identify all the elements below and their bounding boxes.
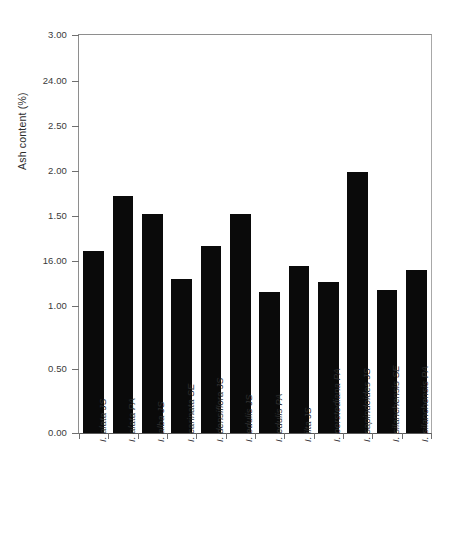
y-axis-tick: 3.00 [72, 35, 79, 36]
y-axis-tick-label: 0.00 [48, 427, 67, 438]
y-axis-tick-label: 1.00 [48, 300, 67, 311]
y-axis-tick: 16.00 [72, 261, 79, 262]
y-axis-tick-label: 24.00 [43, 75, 67, 86]
x-axis-tick-label: I. ilta JS [302, 312, 316, 442]
x-axis-tick-label: I. oerstediana PA [331, 312, 345, 442]
y-axis-tick: 2.50 [72, 126, 79, 127]
y-axis-tick-label: 2.00 [48, 165, 67, 176]
x-axis-tick [79, 433, 80, 439]
y-axis-tick: 0.00 [72, 433, 79, 434]
x-axis-tick-label: I. carinata SE [185, 312, 199, 442]
y-axis-tick: 0.50 [72, 369, 79, 370]
x-axis-tick-label: I. alata PA [126, 312, 140, 442]
x-axis-tick-label: I. edulis PA [273, 312, 287, 442]
x-axis-tick-label: I. silanchensis PA [419, 312, 433, 442]
y-axis-title: Ash content (%) [16, 0, 36, 170]
x-axis-tick-label: I. alba JS [155, 312, 169, 442]
x-axis-tick-label: I. densiflora JS [214, 312, 228, 442]
x-axis-tick-label: I. edulis JS [243, 312, 257, 442]
y-axis-tick: 1.00 [72, 306, 79, 307]
y-axis-tick-label: 16.00 [43, 255, 67, 266]
x-axis-tick-label: I. alata JS [97, 312, 111, 442]
y-axis-tick: 1.50 [72, 216, 79, 217]
x-axis-tick-label: I. silanchensis SE [390, 312, 404, 442]
y-axis-tick: 24.00 [72, 81, 79, 82]
x-axis-tick-label: I. sapindoides JS [361, 312, 375, 442]
y-axis-tick-label: 2.50 [48, 120, 67, 131]
y-axis-tick-label: 3.00 [48, 29, 67, 40]
ash-content-bar-chart: Ash content (%) 3.0024.002.502.001.5016.… [0, 0, 471, 533]
y-axis-tick-label: 0.50 [48, 363, 67, 374]
y-axis-tick: 2.00 [72, 171, 79, 172]
y-axis-tick-label: 1.50 [48, 210, 67, 221]
